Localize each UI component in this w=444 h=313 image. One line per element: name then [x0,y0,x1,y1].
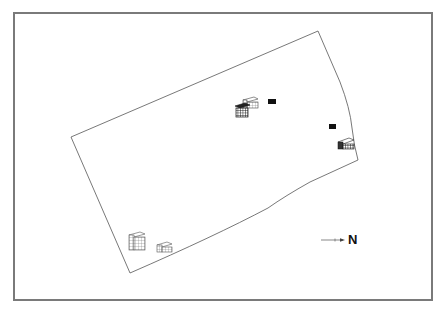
marker-solid-1 [268,99,276,104]
building-east [338,138,354,149]
north-arrow-icon [321,238,345,241]
marker-solid-2 [329,124,336,129]
building-southwest-tall [129,232,145,250]
site-plan-canvas [0,0,444,313]
site-boundary [71,31,358,273]
building-southwest-small [157,242,172,252]
north-label: N [348,232,357,248]
building-cluster-center [235,97,258,117]
